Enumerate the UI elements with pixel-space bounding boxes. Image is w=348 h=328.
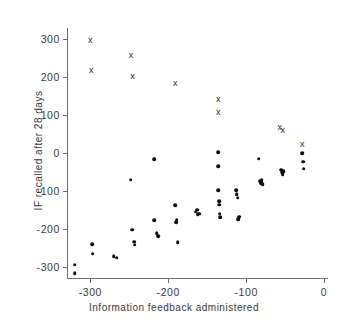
- data-point-cross: x: [127, 51, 135, 60]
- data-point-cross: x: [171, 79, 179, 88]
- data-point-dot: [219, 216, 223, 220]
- data-point-cross: x: [86, 35, 94, 44]
- data-point-cross: x: [128, 71, 136, 80]
- data-point-dot: [91, 252, 95, 256]
- data-point-dot: [236, 196, 240, 200]
- data-point-dot: [115, 256, 119, 260]
- x-tick-label--100: -100: [234, 286, 257, 298]
- data-point-dot: [175, 218, 179, 222]
- x-axis-title: Information feedback administered: [0, 302, 348, 313]
- data-point-dot: [152, 158, 156, 162]
- data-point-dot: [217, 203, 221, 207]
- data-point-dot: [129, 178, 133, 182]
- x-tick--300: [90, 278, 91, 283]
- y-tick-label-0: 0: [54, 147, 60, 159]
- data-point-cross: x: [214, 95, 222, 104]
- x-tick-label--200: -200: [157, 286, 180, 298]
- data-point-dot: [300, 151, 304, 155]
- y-tick--100: [63, 191, 68, 192]
- data-point-dot: [176, 241, 180, 245]
- y-axis-title: IF recalled after 28 days: [33, 51, 44, 251]
- x-tick-label-0: 0: [321, 286, 327, 298]
- data-point-dot: [173, 203, 177, 207]
- data-point-cross: x: [298, 139, 306, 148]
- y-tick-0: [63, 153, 68, 154]
- scatter-plot-figure: 3002001000-100-200-300 -300-200-1000 xxx…: [0, 0, 348, 328]
- data-point-dot: [237, 215, 241, 219]
- x-axis-line: [67, 278, 328, 279]
- data-point-dot: [131, 228, 135, 232]
- y-tick-label--300: -300: [37, 261, 60, 273]
- data-point-dot: [216, 150, 220, 154]
- y-tick-100: [63, 115, 68, 116]
- data-point-dot: [302, 167, 306, 171]
- y-tick-label-300: 300: [41, 33, 60, 45]
- data-point-dot: [73, 272, 77, 276]
- y-tick-200: [63, 77, 68, 78]
- y-tick-label-200: 200: [41, 71, 60, 83]
- data-point-dot: [90, 242, 94, 246]
- data-point-dot: [282, 169, 286, 173]
- y-tick-label-100: 100: [41, 109, 60, 121]
- y-tick--200: [63, 229, 68, 230]
- x-tick--200: [168, 278, 169, 283]
- data-point-dot: [261, 182, 265, 186]
- data-point-dot: [301, 160, 305, 164]
- data-point-dot: [156, 234, 160, 238]
- data-point-dot: [73, 263, 77, 267]
- data-point-cross: x: [279, 125, 287, 134]
- data-point-dot: [257, 157, 261, 161]
- data-point-dot: [216, 164, 220, 168]
- data-point-dot: [152, 219, 156, 223]
- x-tick-0: [324, 278, 325, 283]
- data-point-cross: x: [87, 66, 95, 75]
- x-tick--100: [246, 278, 247, 283]
- data-point-dot: [216, 188, 220, 192]
- data-point-dot: [198, 212, 202, 216]
- y-tick--300: [63, 267, 68, 268]
- x-tick-label--300: -300: [79, 286, 102, 298]
- y-tick-300: [63, 39, 68, 40]
- data-point-cross: x: [214, 108, 222, 117]
- data-point-dot: [133, 243, 137, 247]
- plot-area: 3002001000-100-200-300 -300-200-1000 xxx…: [67, 28, 328, 278]
